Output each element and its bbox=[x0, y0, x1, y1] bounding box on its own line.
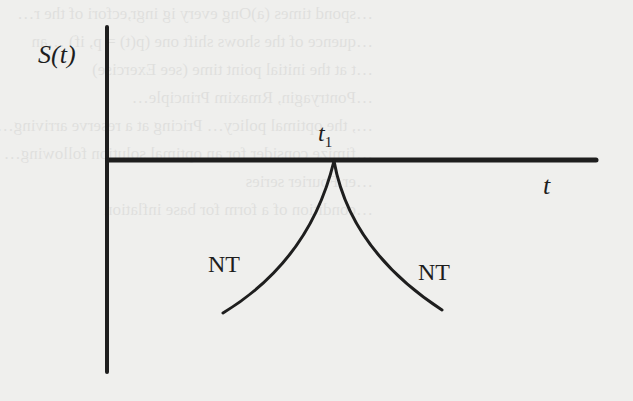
y-axis-label: S(t) bbox=[38, 42, 76, 68]
left-branch-label: NT bbox=[208, 252, 240, 276]
right-branch-label: NT bbox=[418, 260, 450, 284]
switching-time-label: t1 bbox=[318, 121, 332, 145]
switching-function-diagram bbox=[0, 0, 633, 401]
x-axis-label: t bbox=[543, 173, 550, 199]
right-curve-nt bbox=[334, 161, 442, 310]
left-curve-nt bbox=[223, 161, 334, 313]
